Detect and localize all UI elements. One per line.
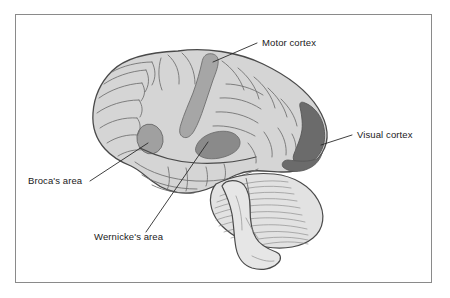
label-brocas-area: Broca's area xyxy=(28,175,83,186)
label-motor-cortex: Motor cortex xyxy=(262,37,316,48)
brain-illustration: Motor cortex Visual cortex Broca's area … xyxy=(0,0,450,298)
brain-diagram-figure: Motor cortex Visual cortex Broca's area … xyxy=(0,0,450,298)
label-wernickes-area: Wernicke's area xyxy=(94,231,164,242)
label-visual-cortex: Visual cortex xyxy=(357,129,413,140)
